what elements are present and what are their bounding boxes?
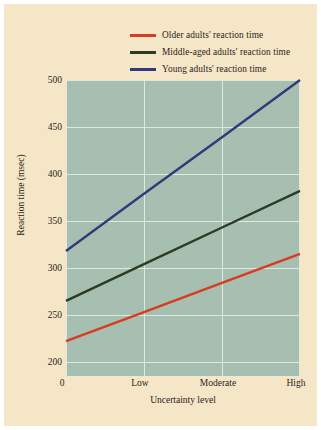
- plot-area: [66, 80, 300, 376]
- y-axis-title: Reaction time (msec): [16, 120, 26, 270]
- x-axis-tick-label: 0: [60, 378, 65, 388]
- y-axis-tick-label: 250: [22, 310, 62, 320]
- x-axis-tick-label: Moderate: [200, 378, 236, 388]
- y-axis-tick-label: 200: [22, 357, 62, 367]
- series-line: [66, 191, 300, 301]
- legend-swatch-older-adults: [130, 34, 156, 37]
- y-axis-tick-label: 350: [22, 216, 62, 226]
- legend-label-older-adults: Older adults' reaction time: [162, 30, 263, 40]
- legend-item: Young adults' reaction time: [130, 62, 310, 76]
- y-axis-tick-label: 400: [22, 169, 62, 179]
- y-axis-tick-label: 450: [22, 122, 62, 132]
- legend-item: Middle-aged adults' reaction time: [130, 45, 310, 59]
- legend-label-young-adults: Young adults' reaction time: [162, 64, 266, 74]
- x-axis-tick-label: High: [287, 378, 306, 388]
- data-lines: [66, 80, 300, 376]
- legend-item: Older adults' reaction time: [130, 28, 310, 42]
- x-axis-tick-label: Low: [131, 378, 148, 388]
- y-axis-tick-label: 300: [22, 263, 62, 273]
- legend-label-middle-aged-adults: Middle-aged adults' reaction time: [162, 47, 290, 57]
- x-axis-title: Uncertainty level: [66, 395, 300, 405]
- legend-swatch-middle-aged-adults: [130, 51, 156, 54]
- figure-panel: Older adults' reaction time Middle-aged …: [4, 4, 317, 426]
- chart-legend: Older adults' reaction time Middle-aged …: [130, 28, 310, 79]
- y-axis-tick-label: 500: [22, 75, 62, 85]
- legend-swatch-young-adults: [130, 68, 156, 71]
- series-line: [66, 254, 300, 341]
- series-line: [66, 80, 300, 251]
